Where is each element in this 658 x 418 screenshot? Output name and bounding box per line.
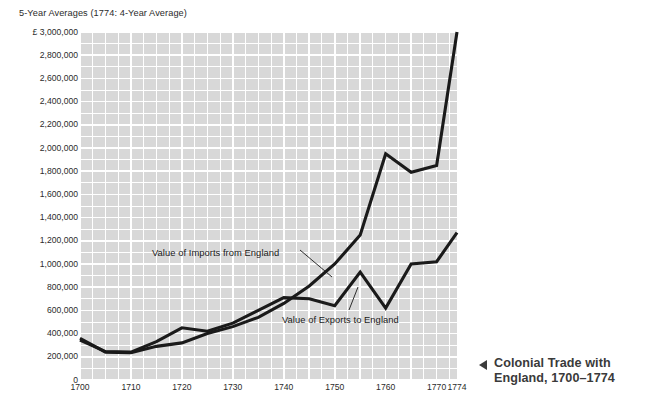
x-axis-tick-label: 1710 [121,382,140,392]
y-axis: £ 3,000,0002,800,0002,600,0002,400,0002,… [0,0,78,418]
y-axis-tick-label: 600,000 [4,306,78,315]
x-axis-tick-label: 1720 [172,382,191,392]
figure-colonial-trade: 5-Year Averages (1774: 4-Year Average) £… [0,0,658,418]
x-axis-tick-label: 1740 [274,382,293,392]
annotation-exports-label: Value of Exports to England [282,314,399,325]
y-axis-tick-label: 1,400,000 [4,213,78,222]
y-axis-tick-label: £ 3,000,000 [4,28,78,37]
x-axis-tick-label: 1700 [70,382,89,392]
x-axis-tick-label: 1730 [223,382,242,392]
caption-line-1: Colonial Trade with [494,356,615,371]
x-axis-tick-label: 1750 [325,382,344,392]
x-axis-tick-label: 1770 [427,382,446,392]
y-axis-tick-label: 400,000 [4,329,78,338]
y-axis-tick-label: 1,200,000 [4,236,78,245]
x-axis-tick-label: 1774 [447,382,466,392]
caption: Colonial Trade with England, 1700–1774 [479,356,654,386]
y-axis-tick-label: 2,800,000 [4,51,78,60]
y-axis-tick-label: 2,600,000 [4,74,78,83]
plot-area [80,32,457,380]
annotation-imports-label: Value of Imports from England [152,247,279,258]
y-axis-tick-label: 2,400,000 [4,97,78,106]
y-axis-tick-label: 1,000,000 [4,260,78,269]
caption-triangle-icon [479,360,487,370]
series-lines [80,32,457,380]
y-axis-tick-label: 2,200,000 [4,120,78,129]
y-axis-tick-label: 800,000 [4,283,78,292]
y-axis-tick-label: 1,800,000 [4,167,78,176]
y-axis-tick-label: 2,000,000 [4,144,78,153]
x-axis-tick-label: 1760 [376,382,395,392]
y-axis-tick-label: 200,000 [4,352,78,361]
caption-text: Colonial Trade with England, 1700–1774 [494,356,615,386]
y-axis-tick-label: 1,600,000 [4,190,78,199]
caption-line-2: England, 1700–1774 [494,371,615,386]
